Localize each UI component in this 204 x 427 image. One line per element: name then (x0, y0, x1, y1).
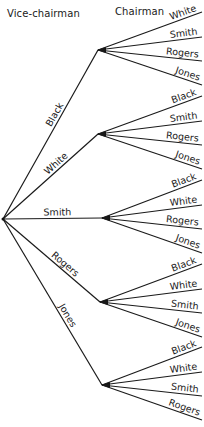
branch-rogers: RogersBlackWhiteSmithJones (3, 219, 202, 337)
decision-tree: BlackWhiteSmithRogersJonesWhiteBlackSmit… (0, 0, 204, 427)
vice-chairman-edge (3, 218, 102, 219)
vice-chairman-label: Smith (43, 206, 71, 217)
root-node (2, 218, 5, 221)
branch-smith: SmithBlackWhiteRogersJones (3, 170, 202, 253)
vice-chairman-edge (3, 219, 102, 385)
branch-jones: JonesBlackWhiteSmithRogers (3, 219, 202, 420)
vice-chairman-edge (3, 219, 100, 302)
vice-chairman-edge (3, 50, 98, 219)
vice-chairman-label: Rogers (49, 249, 81, 279)
